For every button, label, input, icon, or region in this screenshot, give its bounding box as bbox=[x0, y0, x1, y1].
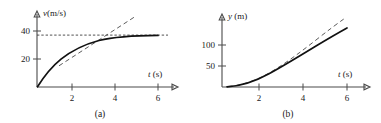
y-axis-title-b: y (m) bbox=[227, 11, 247, 21]
y-tick-label-20-a: 20 bbox=[21, 54, 31, 64]
y-tick-label-100-b: 100 bbox=[202, 40, 216, 50]
x-axis-title-b: t (s) bbox=[338, 69, 352, 79]
x-tick-label-2-a: 2 bbox=[70, 93, 75, 103]
x-axis-unit-b: (s) bbox=[341, 69, 353, 79]
y-axis-unit-a: (m/s) bbox=[47, 8, 66, 18]
panel-caption-b: (b) bbox=[282, 109, 293, 120]
x-tick-label-4-a: 4 bbox=[113, 93, 118, 103]
x-axis-title-a: t (s) bbox=[148, 69, 162, 79]
chart-svg-a: 20 40 2 4 6 v(m/s) t (s) (a) bbox=[0, 0, 190, 123]
ideal-displacement-curve-b bbox=[228, 18, 346, 87]
chart-panel-a: 20 40 2 4 6 v(m/s) t (s) (a) bbox=[0, 0, 190, 123]
x-axis-unit-a: (s) bbox=[151, 69, 163, 79]
y-axis-unit-b: (m) bbox=[232, 11, 247, 21]
x-tick-label-6-a: 6 bbox=[156, 93, 161, 103]
y-tick-label-40-a: 40 bbox=[21, 26, 31, 36]
figure-container: 20 40 2 4 6 v(m/s) t (s) (a) bbox=[0, 0, 381, 123]
y-tick-label-50-b: 50 bbox=[206, 61, 216, 71]
panel-caption-a: (a) bbox=[95, 109, 106, 120]
velocity-curve-a bbox=[38, 35, 159, 86]
x-tick-label-4-b: 4 bbox=[301, 93, 306, 103]
y-axis-title-a: v(m/s) bbox=[43, 8, 66, 18]
x-tick-label-2-b: 2 bbox=[257, 93, 262, 103]
chart-panel-b: 50 100 2 4 6 y (m) t (s) (b) bbox=[190, 0, 381, 123]
x-tick-label-6-b: 6 bbox=[345, 93, 350, 103]
displacement-curve-b bbox=[227, 28, 347, 87]
chart-svg-b: 50 100 2 4 6 y (m) t (s) (b) bbox=[190, 0, 381, 123]
